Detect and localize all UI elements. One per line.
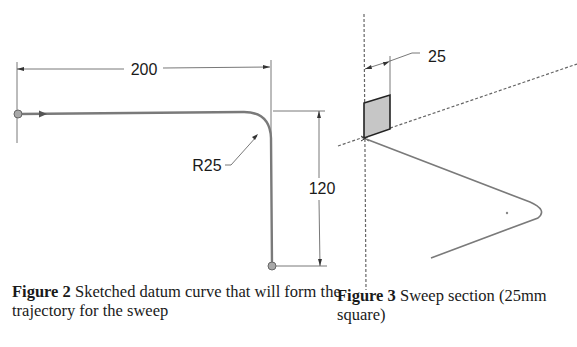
figure-2-label: Figure 2 bbox=[12, 282, 71, 301]
section-square bbox=[364, 95, 390, 138]
dimension-label-25: 25 bbox=[428, 48, 446, 65]
vertical-datum-line bbox=[364, 14, 366, 290]
figure-2-caption: Figure 2 Sketched datum curve that will … bbox=[12, 282, 342, 320]
arrowhead-25-left bbox=[365, 65, 372, 69]
arrowhead-25-right bbox=[383, 62, 389, 66]
dimension-line-25 bbox=[365, 53, 420, 69]
figure-3-caption: Figure 3 Sweep section (25mm square) bbox=[337, 286, 567, 324]
figure-3-label: Figure 3 bbox=[337, 286, 396, 305]
center-point bbox=[506, 212, 508, 214]
trajectory-3d-curve bbox=[366, 139, 542, 258]
